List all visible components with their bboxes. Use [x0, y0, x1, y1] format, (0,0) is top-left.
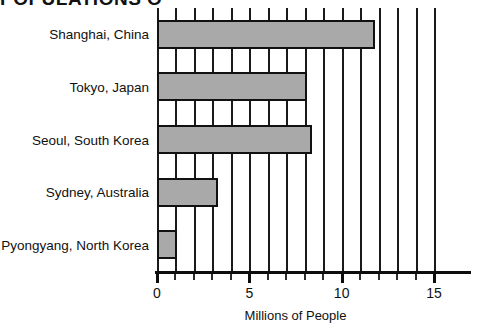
- bar-3: [157, 178, 218, 207]
- minor-tick-14: [415, 274, 417, 280]
- chart-title: POPULATIONS O: [0, 0, 260, 8]
- minor-tick-3: [211, 274, 213, 280]
- gridline-13: [397, 8, 399, 273]
- category-label-1: Tokyo, Japan: [0, 79, 149, 94]
- minor-tick-1: [174, 274, 176, 280]
- bar-chart: POPULATIONS O Millions of People 051015S…: [0, 0, 483, 330]
- bar-1: [157, 72, 307, 101]
- minor-tick-9: [322, 274, 324, 280]
- category-label-0: Shanghai, China: [0, 27, 149, 42]
- major-tick-15: [433, 274, 436, 283]
- bar-0: [157, 20, 375, 49]
- x-tick-label-10: 10: [322, 285, 362, 301]
- gridline-14: [416, 8, 418, 273]
- bar-4: [157, 230, 177, 259]
- minor-tick-7: [285, 274, 287, 280]
- major-tick-10: [341, 274, 344, 283]
- minor-tick-12: [378, 274, 380, 280]
- x-tick-label-15: 15: [414, 285, 454, 301]
- category-label-4: Pyongyang, North Korea: [0, 237, 149, 252]
- minor-tick-11: [359, 274, 361, 280]
- bar-2: [157, 125, 312, 154]
- gridline-15: [434, 8, 436, 273]
- x-axis-line: [155, 271, 471, 274]
- x-tick-label-5: 5: [229, 285, 269, 301]
- gridline-12: [379, 8, 381, 273]
- minor-tick-6: [267, 274, 269, 280]
- major-tick-0: [156, 274, 159, 283]
- category-label-2: Seoul, South Korea: [0, 132, 149, 147]
- minor-tick-2: [193, 274, 195, 280]
- minor-tick-8: [304, 274, 306, 280]
- minor-tick-4: [230, 274, 232, 280]
- minor-tick-13: [396, 274, 398, 280]
- x-axis-title: Millions of People: [157, 308, 434, 323]
- major-tick-5: [248, 274, 251, 283]
- x-tick-label-0: 0: [137, 285, 177, 301]
- category-label-3: Sydney, Australia: [0, 185, 149, 200]
